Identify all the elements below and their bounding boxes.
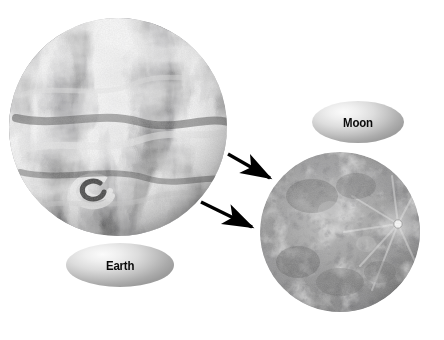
moon-label: Moon bbox=[312, 101, 404, 143]
earth-label: Earth bbox=[66, 243, 174, 287]
moon-sphere bbox=[258, 150, 424, 314]
earth-label-text: Earth bbox=[106, 258, 134, 273]
moon-label-text: Moon bbox=[343, 115, 373, 130]
earth-sphere bbox=[9, 18, 230, 236]
arrow-upper bbox=[228, 154, 270, 178]
earth-moon-diagram: Moon Earth bbox=[0, 0, 444, 340]
arrow-lower bbox=[201, 202, 252, 227]
diagram-canvas bbox=[0, 0, 444, 340]
